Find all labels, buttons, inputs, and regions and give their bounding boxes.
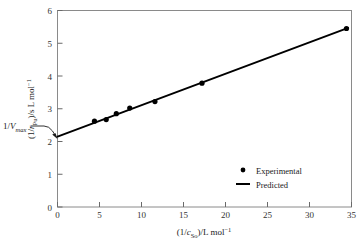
plot-frame — [58, 11, 352, 208]
x-tick-label: 25 — [263, 210, 273, 220]
data-point — [152, 99, 157, 104]
y-intercept-annotation-label: 1/Vmax — [3, 121, 26, 133]
x-tick-label: 20 — [221, 210, 231, 220]
y-axis-ticks — [58, 11, 63, 208]
x-tick-label: 10 — [137, 210, 147, 220]
x-axis-title: (1/cSo)/L mol−1 — [177, 226, 232, 239]
chart-legend: Experimental Predicted — [236, 166, 302, 190]
legend-marker-experimental — [241, 168, 246, 173]
legend-label-experimental: Experimental — [256, 166, 302, 176]
y-tick-label: 5 — [48, 39, 53, 49]
y-tick-label: 6 — [48, 6, 53, 16]
x-tick-label: 0 — [55, 210, 60, 220]
data-point — [104, 117, 109, 122]
data-point — [199, 81, 204, 86]
x-axis-tick-labels: 0 5 10 15 20 25 30 35 — [55, 210, 356, 220]
y-axis-tick-labels: 0 1 2 3 4 5 6 — [48, 6, 53, 213]
y-axis-title: (1/rPu)/s L mol−1 — [25, 79, 38, 139]
data-point — [127, 105, 132, 110]
chart-figure: 0 1 2 3 4 5 6 0 5 10 15 20 25 30 — [0, 0, 363, 243]
y-tick-label: 0 — [48, 203, 53, 213]
y-tick-label: 3 — [48, 104, 53, 114]
y-tick-label: 4 — [48, 72, 53, 82]
chart-canvas: 0 1 2 3 4 5 6 0 5 10 15 20 25 30 — [0, 0, 363, 243]
data-point — [344, 26, 349, 31]
x-axis-ticks — [58, 202, 352, 207]
data-point — [114, 111, 119, 116]
y-tick-label: 2 — [48, 137, 53, 147]
data-point — [92, 119, 97, 124]
x-tick-label: 15 — [179, 210, 189, 220]
legend-label-predicted: Predicted — [256, 180, 289, 190]
x-tick-label: 5 — [97, 210, 102, 220]
x-tick-label: 35 — [347, 210, 357, 220]
x-tick-label: 30 — [305, 210, 315, 220]
y-tick-label: 1 — [48, 170, 53, 180]
